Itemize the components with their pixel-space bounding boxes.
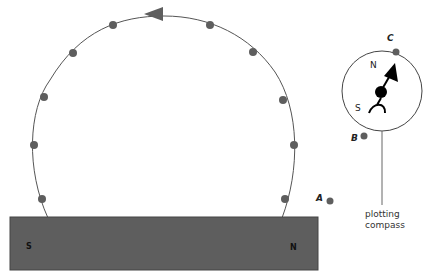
plot-dots [30,21,298,203]
field-direction-arrow [144,7,163,21]
caption-line-1: plotting [365,209,405,220]
point-a-label: A [316,193,323,203]
point-c-label: C [387,33,394,43]
compass-s-label: S [355,103,361,113]
bar-magnet [10,217,318,270]
diagram-canvas [0,0,432,277]
point-a-dot [327,198,334,205]
north-pole-label: N [290,243,297,252]
point-b-dot [361,133,368,140]
compass-n-label: N [370,60,377,70]
south-pole-label: S [26,242,32,251]
compass-pivot [375,86,387,98]
point-b-label: B [351,133,358,143]
field-line [32,16,294,218]
compass-caption: plotting compass [365,209,405,231]
caption-line-2: compass [365,220,405,231]
point-c-dot [393,49,400,56]
